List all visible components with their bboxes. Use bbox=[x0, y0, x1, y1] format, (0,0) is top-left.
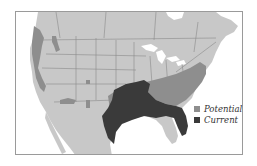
legend: Potential Current bbox=[194, 103, 242, 125]
potential-range-nm bbox=[86, 100, 90, 108]
potential-swatch bbox=[194, 106, 200, 112]
legend-item-current: Current bbox=[194, 114, 242, 125]
potential-range-colorado bbox=[86, 80, 90, 84]
legend-label-potential: Potential bbox=[204, 104, 242, 114]
map-frame bbox=[15, 11, 243, 155]
range-map bbox=[16, 12, 243, 155]
legend-item-potential: Potential bbox=[194, 103, 242, 114]
legend-label-current: Current bbox=[204, 115, 238, 125]
current-swatch bbox=[194, 117, 200, 123]
